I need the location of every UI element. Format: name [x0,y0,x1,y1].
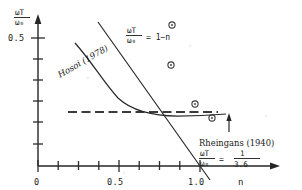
x-tick-label-1.0: 1.0 [188,177,205,187]
rheingans-eq-equals: = [219,155,224,164]
y-axis-label-denominator: ω₀ [15,18,24,27]
eq-numerator: ωT [127,26,137,35]
annotation-one-minus-n: ωT ω₀ = 1−n [126,26,170,45]
y-axis-label: ωT ω₀ [14,8,30,27]
x-tick-label-0: 0 [34,177,40,187]
data-point-markers [168,22,215,121]
rheingans-callout: Rheingans (1940) ωT ω₀ = 1 3.6 [199,113,274,169]
data-point [209,115,215,121]
x-tick-label-0.5: 0.5 [107,177,124,187]
rheingans-value-denominator: 3.6 [234,160,248,169]
chart-figure: 0.5 ωT ω₀ 0 0.5 1.0 n [0,0,302,190]
eq-right-side: = 1−n [146,33,170,42]
x-axis-label: n [238,177,243,187]
y-axis [31,14,45,166]
data-point [169,22,175,28]
eq-denominator: ω₀ [127,36,136,45]
y-axis-arrowhead [35,14,42,24]
data-point [192,101,198,107]
x-axis-arrowhead [270,163,280,170]
y-axis-label-numerator: ωT [15,8,25,17]
rheingans-eq-numerator: ωT [200,149,210,158]
hosoi-label: Hosoi (1978) [55,43,110,80]
rheingans-arrow-head [226,113,231,121]
data-point [168,62,174,68]
y-tick-label-0.5: 0.5 [8,33,25,43]
rheingans-value-numerator: 1 [240,149,245,158]
rheingans-eq-denominator: ω₀ [200,159,209,168]
rheingans-label: Rheingans (1940) [199,138,274,148]
